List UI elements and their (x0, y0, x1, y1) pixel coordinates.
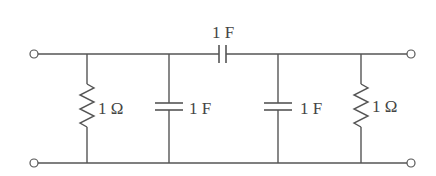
capacitor-c3 (264, 54, 292, 163)
label-r2: 1 Ω (372, 97, 397, 116)
label-c3: 1 F (300, 99, 322, 118)
label-c1: 1 F (189, 99, 211, 118)
output-bottom-terminal (407, 159, 415, 167)
label-r1: 1 Ω (98, 99, 123, 118)
circuit-diagram: 1 Ω 1 F 1 F 1 F 1 Ω (0, 0, 436, 176)
capacitor-c1 (155, 54, 183, 163)
input-bottom-terminal (30, 159, 38, 167)
label-c2: 1 F (212, 23, 234, 42)
input-top-terminal (30, 50, 38, 58)
output-top-terminal (407, 50, 415, 58)
resistor-r1 (80, 54, 94, 163)
capacitor-c2 (219, 45, 226, 63)
resistor-r2 (354, 54, 368, 163)
